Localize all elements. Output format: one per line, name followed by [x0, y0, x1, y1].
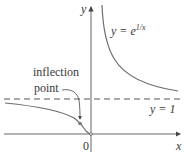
origin-open-point: [90, 133, 93, 136]
curve-label: y = e1/x: [111, 24, 146, 37]
curve-label-base: y = e: [111, 24, 136, 38]
y-axis-label: y: [81, 3, 86, 15]
inflection-label-line2: point: [34, 82, 59, 94]
plot-area: [0, 0, 184, 161]
inflection-arrow: [62, 90, 80, 119]
inflection-label-line1: inflection: [33, 66, 79, 78]
asymptote-label: y = 1: [150, 103, 175, 115]
curve-left-branch: [5, 103, 91, 134]
inflection-point-marker: [78, 122, 82, 126]
curve-label-exponent: 1/x: [136, 23, 146, 32]
function-graph: y x 0 y = e1/x y = 1 inflection point: [0, 0, 184, 161]
x-axis-label: x: [176, 140, 181, 152]
curve-right-branch: [102, 5, 178, 91]
origin-label: 0: [83, 140, 89, 152]
